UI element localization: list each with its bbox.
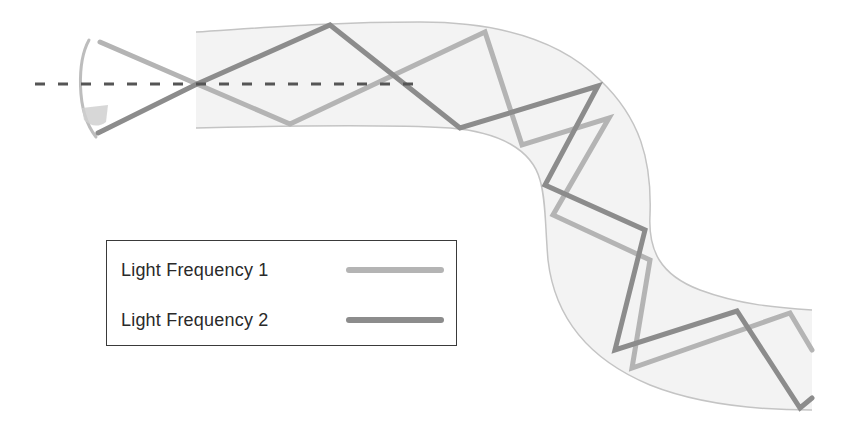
legend-item-frequency-2: Light Frequency 2 <box>121 305 269 335</box>
optical-fiber <box>196 22 812 410</box>
legend: Light Frequency 1 Light Frequency 2 <box>106 240 457 346</box>
legend-item-frequency-1: Light Frequency 1 <box>121 255 269 285</box>
fiber-optic-diagram <box>0 0 844 430</box>
acceptance-cone-icon <box>80 40 108 137</box>
legend-swatch-frequency-2 <box>346 317 444 323</box>
legend-label-frequency-1: Light Frequency 1 <box>121 260 269 281</box>
legend-label-frequency-2: Light Frequency 2 <box>121 310 269 331</box>
legend-swatch-frequency-1 <box>346 267 444 273</box>
